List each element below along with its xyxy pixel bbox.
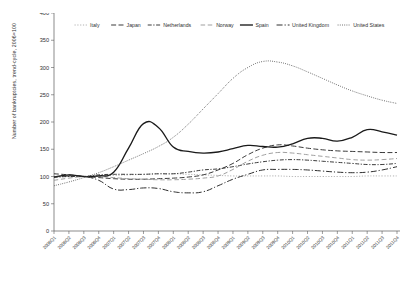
legend-label-italy: Italy — [90, 22, 100, 28]
x-tick-label: 2011Q4 — [385, 235, 400, 250]
y-tick-label: 0 — [46, 228, 49, 234]
x-tick-label: 2006Q1 — [42, 235, 57, 250]
axis-lines — [54, 13, 400, 231]
x-tick-label: 2010Q2 — [295, 235, 310, 250]
legend-label-norway: Norway — [216, 22, 234, 28]
x-tick-label: 2008Q3 — [191, 235, 206, 250]
y-tick-label: 250 — [40, 92, 49, 98]
legend-label-spain: Spain — [255, 22, 268, 28]
y-axis-ticks: 050100150200250300350400 — [40, 13, 54, 234]
series-line-spain — [54, 121, 397, 177]
series-line-united-kingdom — [54, 167, 397, 193]
x-tick-label: 2007Q2 — [116, 235, 131, 250]
y-tick-label: 400 — [40, 13, 49, 16]
x-tick-label: 2006Q3 — [72, 235, 87, 250]
x-tick-label: 2008Q4 — [206, 235, 221, 250]
chart-legend: ItalyJapanNetherlandsNorwaySpainUnited K… — [75, 22, 385, 28]
x-tick-label: 2010Q4 — [325, 235, 340, 250]
plot-area: 050100150200250300350400 2006Q12006Q2200… — [38, 13, 400, 253]
bankruptcy-line-chart: Number of bankruptcies, trend-cycle, 200… — [0, 0, 412, 291]
x-tick-label: 2007Q3 — [131, 235, 146, 250]
x-tick-label: 2007Q1 — [101, 235, 116, 250]
x-tick-label: 2011Q2 — [355, 235, 370, 250]
x-tick-label: 2008Q1 — [161, 235, 176, 250]
y-tick-label: 50 — [43, 201, 49, 207]
x-tick-label: 2007Q4 — [146, 235, 161, 250]
series-line-netherlands — [54, 160, 397, 177]
x-tick-label: 2010Q3 — [310, 235, 325, 250]
legend-label-netherlands: Netherlands — [163, 22, 191, 28]
x-tick-label: 2011Q1 — [340, 235, 355, 250]
x-tick-label: 2010Q1 — [280, 235, 295, 250]
x-tick-label: 2009Q2 — [236, 235, 251, 250]
x-tick-label: 2006Q2 — [57, 235, 72, 250]
legend-label-japan: Japan — [127, 22, 141, 28]
y-tick-label: 100 — [40, 174, 49, 180]
x-tick-label: 2009Q3 — [251, 235, 266, 250]
x-tick-label: 2006Q4 — [87, 235, 102, 250]
chart-svg: 050100150200250300350400 2006Q12006Q2200… — [38, 13, 400, 291]
legend-label-united-states: United States — [353, 22, 385, 28]
y-tick-label: 300 — [40, 65, 49, 71]
x-tick-label: 2009Q1 — [221, 235, 236, 250]
x-tick-label: 2008Q2 — [176, 235, 191, 250]
x-tick-label: 2009Q4 — [265, 235, 280, 250]
y-tick-label: 150 — [40, 146, 49, 152]
legend-label-united-kingdom: United Kingdom — [292, 22, 329, 28]
x-axis-ticks: 2006Q12006Q22006Q32006Q42007Q12007Q22007… — [42, 231, 400, 250]
y-tick-label: 200 — [40, 119, 49, 125]
series-lines — [54, 61, 397, 193]
y-axis-title: Number of bankruptcies, trend-cycle, 200… — [11, 1, 17, 161]
y-tick-label: 350 — [40, 37, 49, 43]
x-tick-label: 2011Q3 — [370, 235, 385, 250]
